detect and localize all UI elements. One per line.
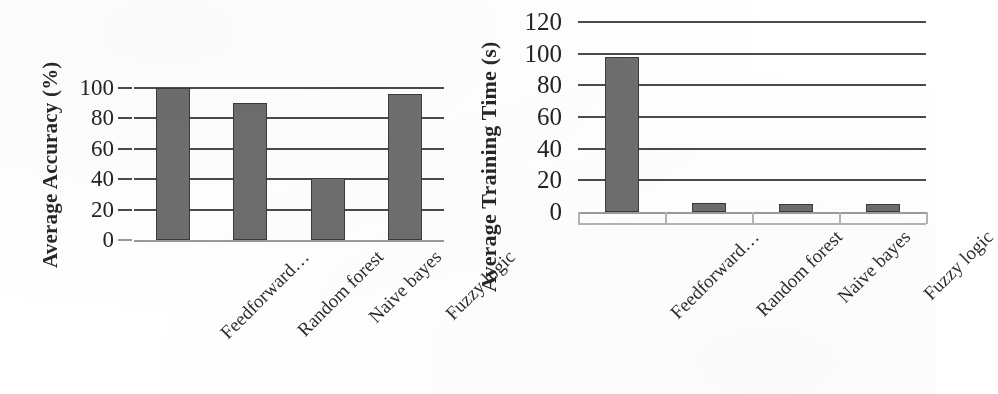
y-axis-tick-mark [118,178,132,180]
plot-area-training-time [578,22,926,212]
bar-slot [752,22,839,212]
category-tick [926,212,928,224]
y-axis-tick-label: 80 [537,71,562,99]
bar[interactable] [692,203,726,213]
bar-slot [289,88,367,240]
bar[interactable] [605,57,639,212]
bar[interactable] [156,88,190,240]
y-axis-tick-labels-training-time: 020406080100120 [498,0,562,394]
plot-area-accuracy [134,88,444,240]
bar[interactable] [779,204,813,212]
y-axis-tick-label: 60 [537,103,562,131]
y-axis-tick-label: 80 [91,105,114,131]
y-axis-tick-label: 120 [525,8,563,36]
bar[interactable] [388,94,422,240]
bar-group [578,22,926,212]
y-axis-tick-label: 0 [550,198,563,226]
chart-average-training-time: Average Training Time (s) 02040608010012… [468,0,936,394]
bar[interactable] [866,204,900,212]
bar-slot [578,22,665,212]
y-axis-tick-label: 60 [91,136,114,162]
y-axis-tick-mark [118,148,132,150]
x-axis-tick-label: Naive bayes [833,226,915,308]
y-axis-tick-label: 20 [537,166,562,194]
y-axis-title-accuracy: Average Accuracy (%) [38,61,63,268]
y-axis-tick-label: 0 [103,227,115,253]
x-axis-tick-label: Feedforward… [666,226,764,324]
y-axis-tick-label: 100 [80,75,115,101]
bar[interactable] [233,103,267,240]
bar-slot [839,22,926,212]
x-axis-tick-label: Random forest [752,226,847,321]
y-axis-tick-mark [118,239,132,241]
y-axis-tick-label: 100 [525,40,563,68]
y-axis-tick-label: 40 [91,166,114,192]
bar-slot [665,22,752,212]
bar-slot [134,88,212,240]
chart-average-accuracy: Average Accuracy (%) 020406080100 Feedfo… [0,0,468,394]
y-axis-tick-mark [118,209,132,211]
y-axis-tick-labels-accuracy: 020406080100 [62,0,114,394]
y-axis-tick-mark [118,117,132,119]
bar-group [134,88,444,240]
bar-slot [212,88,290,240]
x-axis-baseline [578,212,926,214]
y-axis-tick-label: 40 [537,135,562,163]
bar[interactable] [311,178,345,240]
y-axis-tick-label: 20 [91,197,114,223]
category-axis-line [578,223,926,225]
x-axis-tick-label: Fuzzy logic [919,226,998,305]
y-axis-tick-mark [118,87,132,89]
x-axis-baseline [134,240,444,242]
bar-slot [367,88,445,240]
